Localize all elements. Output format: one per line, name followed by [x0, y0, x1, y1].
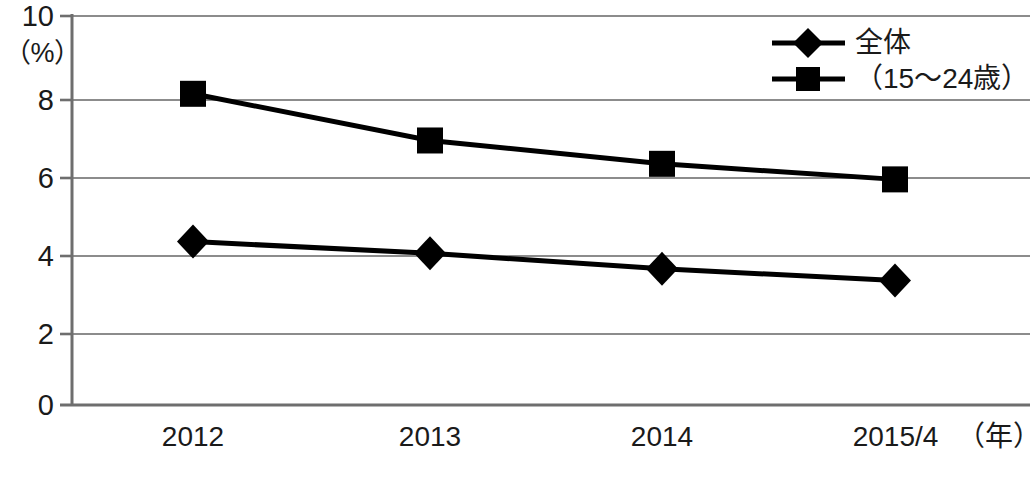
data-point-square [649, 151, 675, 177]
legend-diamond-icon [793, 28, 823, 58]
axes [60, 14, 1030, 406]
data-point-diamond [177, 225, 209, 259]
line-chart: （%） 10 8 6 4 2 0 2012 2013 2014 2015/4 （… [0, 0, 1034, 478]
plot-canvas [0, 0, 1034, 478]
data-point-square [417, 127, 443, 153]
legend-markers [772, 28, 845, 91]
data-series-layer [177, 81, 911, 298]
data-point-diamond [414, 236, 446, 270]
series-age-15-24 [180, 81, 908, 193]
data-point-diamond [879, 264, 911, 298]
data-point-square [882, 166, 908, 192]
series-overall [177, 225, 911, 298]
legend-square-icon [796, 67, 820, 91]
series-line [193, 94, 895, 180]
series-line [193, 242, 895, 281]
data-point-square [180, 81, 206, 107]
